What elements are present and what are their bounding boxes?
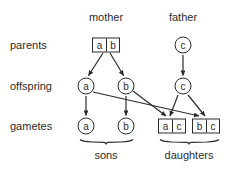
gamete-allele-circle-a: a xyxy=(78,118,95,135)
offspring-allele-circle-b: b xyxy=(118,78,135,95)
group-label-daughters: daughters xyxy=(165,149,214,161)
allele-cell: a xyxy=(93,39,106,52)
row-label-offspring: offspring xyxy=(10,80,52,92)
column-header-mother: mother xyxy=(89,11,123,23)
edge-offspring-a-to-gamete-bc xyxy=(93,92,199,116)
allele-cell: c xyxy=(206,120,219,133)
row-label-parents: parents xyxy=(10,39,47,51)
edge-mother-to-offspring-a xyxy=(89,53,104,76)
allele-cell: c xyxy=(172,120,185,133)
brace-daughters xyxy=(160,140,219,145)
gamete-allele-circle-b: b xyxy=(118,118,135,135)
allele-cell: a xyxy=(159,120,172,133)
offspring-allele-circle-a: a xyxy=(78,78,95,95)
edge-offspring-b-to-gamete-ac xyxy=(133,91,166,116)
allele-cell: b xyxy=(106,39,119,52)
brace-sons xyxy=(80,140,133,145)
inheritance-diagram: mother father parents offspring gametes … xyxy=(0,0,230,172)
allele-cell: b xyxy=(193,120,206,133)
edge-mother-to-offspring-b xyxy=(110,53,124,76)
gamete-allele-pair-ac: a c xyxy=(158,119,186,134)
parent-mother-allele-pair: a b xyxy=(92,38,120,53)
edge-offspring-c-to-gamete-ac xyxy=(170,95,178,116)
offspring-allele-circle-c: c xyxy=(175,78,192,95)
gamete-allele-pair-bc: b c xyxy=(192,119,220,134)
group-label-sons: sons xyxy=(94,149,117,161)
column-header-father: father xyxy=(169,11,197,23)
parent-father-allele-circle: c xyxy=(175,37,192,54)
row-label-gametes: gametes xyxy=(10,120,52,132)
edge-offspring-c-to-gamete-bc xyxy=(188,95,205,116)
